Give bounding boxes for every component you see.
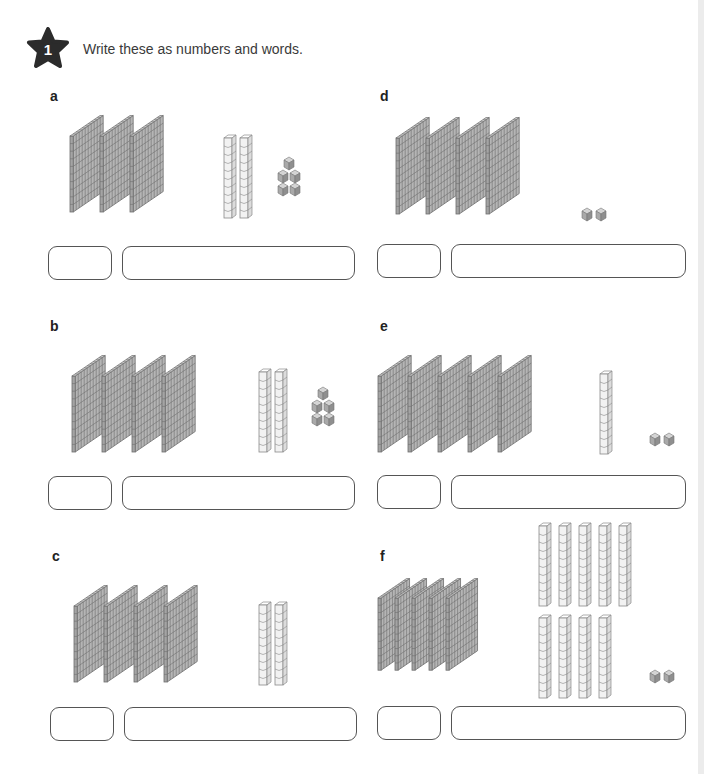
base-ten-blocks (372, 318, 692, 468)
words-answer-box[interactable] (122, 246, 355, 280)
problem-c: c (44, 548, 364, 748)
hundreds-flats (396, 118, 519, 214)
words-answer-box[interactable] (451, 244, 686, 278)
words-answer-box[interactable] (122, 476, 355, 510)
tens-rods (259, 369, 287, 452)
problem-d: d (372, 88, 692, 288)
problem-a: a (42, 88, 362, 288)
number-answer-box[interactable] (377, 706, 441, 740)
words-answer-box[interactable] (451, 706, 686, 740)
question-number: 1 (26, 27, 70, 71)
base-ten-blocks (42, 318, 362, 468)
ones-units (312, 387, 334, 426)
base-ten-blocks (372, 520, 692, 705)
number-answer-box[interactable] (377, 244, 441, 278)
hundreds-flats (378, 356, 531, 452)
problem-f: f (372, 520, 692, 750)
star-icon: 1 (26, 27, 70, 71)
hundreds-flats (74, 586, 197, 682)
tens-rods (539, 523, 631, 698)
instruction-text: Write these as numbers and words. (83, 41, 303, 57)
ones-units (278, 157, 300, 196)
question-header: 1 Write these as numbers and words. (26, 27, 303, 71)
base-ten-blocks (42, 88, 362, 238)
problem-e: e (372, 318, 692, 518)
number-answer-box[interactable] (48, 246, 112, 280)
tens-rods (259, 602, 287, 685)
ones-units (582, 208, 606, 221)
ones-units (650, 433, 674, 446)
words-answer-box[interactable] (451, 475, 686, 509)
tens-rods (600, 371, 612, 454)
number-answer-box[interactable] (50, 707, 114, 741)
hundreds-flats (378, 579, 478, 671)
problem-b: b (42, 318, 362, 518)
words-answer-box[interactable] (124, 707, 357, 741)
ones-units (650, 670, 674, 683)
base-ten-blocks (372, 88, 692, 238)
page-edge (698, 0, 704, 774)
number-answer-box[interactable] (377, 475, 441, 509)
tens-rods (224, 135, 252, 218)
number-answer-box[interactable] (48, 476, 112, 510)
hundreds-flats (70, 116, 163, 212)
base-ten-blocks (44, 548, 364, 698)
hundreds-flats (72, 356, 195, 452)
